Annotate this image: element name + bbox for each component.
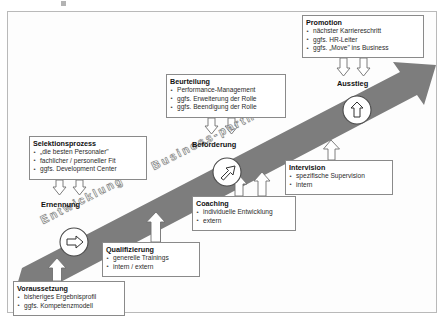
box-title: Beurteilung xyxy=(170,77,282,86)
list-item: intern xyxy=(289,181,389,190)
box-items: „die besten Personaler" fachlicher / per… xyxy=(33,148,143,174)
box-beurteilung[interactable]: Beurteilung Performance-Management ggfs.… xyxy=(166,74,286,118)
list-item: generelle Trainings xyxy=(106,254,196,263)
box-items: individuelle Entwicklung extern xyxy=(196,208,292,225)
list-item: ggfs. „Move" ins Business xyxy=(306,44,420,53)
box-selektionsprozess[interactable]: Selektionsprozess „die besten Personaler… xyxy=(29,136,147,180)
box-items: spezifische Supervision intern xyxy=(289,172,389,189)
box-items: nächster Karriereschritt ggfs. HR-Leiter… xyxy=(306,27,420,53)
list-item: ggfs. Kompetenzmodell xyxy=(17,302,121,311)
diagram-canvas: Entwicklung Business-partner Ernennung B… xyxy=(0,0,446,326)
list-item: ggfs. Development Center xyxy=(33,165,143,174)
box-title: Voraussetzung xyxy=(17,284,121,293)
stage-icon-befoerderung xyxy=(213,158,241,186)
box-voraussetzung[interactable]: Voraussetzung bisheriges Ergebnisprofil … xyxy=(13,281,125,316)
box-title: Intervision xyxy=(289,163,389,172)
stage-label-ausstieg: Ausstieg xyxy=(337,79,368,88)
list-item: nächster Karriereschritt xyxy=(306,27,420,36)
box-coaching[interactable]: Coaching individuelle Entwicklung extern xyxy=(192,196,296,231)
box-items: bisheriges Ergebnisprofil ggfs. Kompeten… xyxy=(17,293,121,310)
list-item: ggfs. Erweiterung der Rolle xyxy=(170,95,282,104)
list-item: intern / extern xyxy=(106,263,196,272)
stage-icon-ernennung xyxy=(60,228,88,256)
list-item: spezifische Supervision xyxy=(289,172,389,181)
list-item: Performance-Management xyxy=(170,86,282,95)
list-item: individuelle Entwicklung xyxy=(196,208,292,217)
list-item: extern xyxy=(196,217,292,226)
box-qualifizierung[interactable]: Qualifizierung generelle Trainings inter… xyxy=(102,242,200,277)
stage-label-ernennung: Ernennung xyxy=(41,200,80,209)
box-promotion[interactable]: Promotion nächster Karriereschritt ggfs.… xyxy=(302,15,424,58)
list-item: fachlicher / personeller Fit xyxy=(33,157,143,166)
box-title: Selektionsprozess xyxy=(33,139,143,148)
stage-label-befoerderung: Beförderung xyxy=(192,140,236,149)
connector-promotion xyxy=(337,58,370,76)
box-items: Performance-Management ggfs. Erweiterung… xyxy=(170,86,282,112)
box-title: Qualifizierung xyxy=(106,245,196,254)
connector-intervision xyxy=(324,140,340,160)
list-item: ggfs. HR-Leiter xyxy=(306,36,420,45)
stage-icon-ausstieg xyxy=(343,96,371,124)
box-items: generelle Trainings intern / extern xyxy=(106,254,196,271)
box-title: Promotion xyxy=(306,18,420,27)
box-intervision[interactable]: Intervision spezifische Supervision inte… xyxy=(285,160,393,195)
list-item: „die besten Personaler" xyxy=(33,148,143,157)
list-item: ggfs. Beendigung der Rolle xyxy=(170,103,282,112)
box-title: Coaching xyxy=(196,199,292,208)
list-item: bisheriges Ergebnisprofil xyxy=(17,293,121,302)
